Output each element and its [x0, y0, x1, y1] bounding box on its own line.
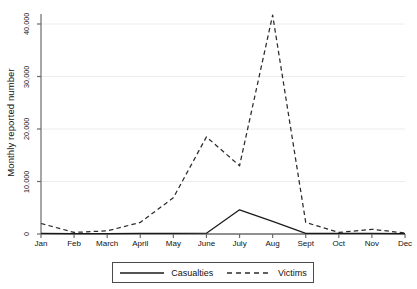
y-tick-label: 30,000 — [21, 66, 33, 88]
y-axis-title: Monthly reported number — [2, 0, 18, 245]
legend-item-victims: Victims — [226, 268, 307, 278]
dashed-line-swatch-icon — [226, 269, 272, 277]
series-line-victims — [41, 15, 405, 233]
series-line-casualties — [41, 210, 405, 234]
y-tick-label: 10,000 — [21, 171, 33, 193]
legend-item-casualties: Casualties — [119, 268, 213, 278]
y-axis-title-label: Monthly reported number — [5, 68, 16, 176]
y-tick-label: 40,000 — [21, 13, 33, 35]
solid-line-swatch-icon — [119, 269, 165, 277]
legend-label-casualties: Casualties — [171, 268, 213, 278]
x-tick-label: Dec — [385, 239, 417, 248]
chart-legend: Casualties Victims — [112, 262, 314, 283]
y-tick-label: 20,000 — [21, 118, 33, 140]
legend-label-victims: Victims — [278, 268, 307, 278]
